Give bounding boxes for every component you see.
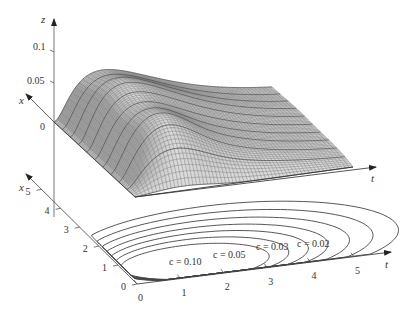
contour-label-0.02: c = 0.02 [297, 238, 330, 249]
lower-x-tick-label: 1 [102, 262, 107, 273]
contour-line [112, 231, 309, 280]
lower-t-tick-label: 3 [268, 276, 273, 287]
upper-x-axis [26, 94, 54, 122]
lower-t-tick-label: 0 [138, 292, 143, 303]
surface-and-contour-figure: z 0.1 0.05 0 x t x t 001122334455 c = 0.… [0, 0, 409, 313]
lower-x-axis-label: x [18, 181, 24, 193]
lower-t-tick-label: 1 [181, 287, 186, 298]
z-axis-label: z [40, 13, 46, 25]
lower-t-tick-label: 2 [225, 281, 230, 292]
wireframe-surface [54, 70, 353, 198]
lower-contour-panel: x t 001122334455 c = 0.10 c = 0.05 c = 0… [18, 174, 399, 303]
z-tick-0.05 [50, 81, 54, 83]
lower-x-axis [26, 174, 137, 284]
lower-x-tick-label: 4 [45, 205, 50, 216]
z-tick-0.1 [50, 50, 54, 52]
lower-x-tick-label: 3 [64, 224, 69, 235]
contour-label-0.03: c = 0.03 [256, 241, 289, 252]
z-tick-label-0: 0 [40, 121, 45, 132]
z-tick-label-0.05: 0.05 [27, 75, 45, 86]
upper-x-axis-label: x [18, 94, 24, 106]
contour-lines [92, 201, 399, 281]
lower-x-tick-label: 5 [25, 186, 30, 197]
contour-line [97, 210, 373, 281]
lower-t-tick-label: 4 [312, 270, 317, 281]
lower-t-axis-label: t [385, 258, 389, 270]
lower-x-tick-label: 0 [121, 281, 126, 292]
z-tick-label-0.1: 0.1 [33, 41, 46, 52]
lower-x-tick-label: 2 [83, 243, 88, 254]
upper-surface-panel: z 0.1 0.05 0 x t [18, 13, 376, 217]
lower-t-tick-label: 5 [355, 265, 360, 276]
contour-label-0.10: c = 0.10 [169, 256, 202, 267]
contour-label-0.05: c = 0.05 [213, 249, 246, 260]
contour-line [92, 201, 399, 281]
upper-t-axis-label: t [371, 172, 375, 184]
